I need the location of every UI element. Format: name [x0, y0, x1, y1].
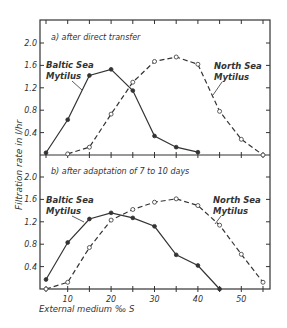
y-tick-label: 0.4 — [24, 263, 37, 272]
y-tick-label: 1.2 — [24, 218, 37, 227]
y-axis-label: Filtration rate in l/hr — [14, 119, 24, 210]
data-point — [239, 137, 243, 141]
baltic-sea-line — [46, 69, 198, 152]
data-point — [44, 151, 48, 155]
panel-b-baltic-label-2: Mytilus — [46, 206, 81, 216]
data-point — [153, 224, 157, 228]
data-point — [109, 211, 113, 215]
data-point — [174, 253, 178, 257]
data-point — [174, 55, 178, 59]
x-tick-label: 40 — [193, 295, 203, 304]
data-point — [196, 264, 200, 268]
data-point — [196, 62, 200, 66]
data-point — [66, 241, 70, 245]
data-point — [174, 197, 178, 201]
x-tick-label: 10 — [63, 295, 73, 304]
data-point — [153, 134, 157, 138]
baltic-leader-line — [72, 216, 84, 222]
data-point — [131, 216, 135, 220]
data-point — [109, 218, 113, 222]
panel-b-north-label-1: North Sea — [213, 195, 261, 205]
data-point — [88, 74, 92, 78]
x-tick-label: 50 — [236, 295, 246, 304]
y-tick-label: 1.6 — [24, 195, 37, 204]
baltic-leader-line — [72, 81, 82, 90]
data-point — [44, 287, 48, 291]
data-point — [131, 89, 135, 93]
north-leader-line — [213, 82, 222, 95]
data-point — [87, 145, 91, 149]
baltic-sea-line — [46, 213, 220, 289]
x-tick-label: 20 — [106, 295, 116, 304]
data-point — [66, 280, 70, 284]
data-point — [174, 145, 178, 149]
panel-a-baltic-label-1: Baltic Sea — [46, 60, 94, 70]
filtration-rate-chart: 0.40.81.21.62.0 0.40.81.21.62.0102030405… — [0, 0, 287, 328]
data-point — [109, 112, 113, 116]
panel-b-title: b) after adaptation of 7 to 10 days — [51, 167, 189, 176]
y-tick-label: 2.0 — [24, 173, 37, 182]
data-point — [261, 280, 265, 284]
panel-b-north-label-2: Mytilus — [213, 206, 248, 216]
data-point — [239, 252, 243, 256]
data-point — [131, 207, 135, 211]
north-leader-line — [215, 216, 221, 224]
panel-b-after-adaptation: 0.40.81.21.62.01020304050 — [24, 173, 270, 304]
data-point — [87, 246, 91, 250]
data-point — [196, 204, 200, 208]
data-point — [196, 150, 200, 154]
x-tick-label: 30 — [149, 295, 159, 304]
y-tick-label: 1.6 — [24, 61, 37, 70]
panel-a-north-label-2: Mytilus — [214, 72, 249, 82]
y-tick-label: 2.0 — [24, 39, 37, 48]
data-point — [66, 152, 70, 156]
data-point — [88, 217, 92, 221]
data-point — [261, 153, 265, 157]
data-point — [218, 287, 222, 291]
data-point — [218, 109, 222, 113]
data-point — [131, 80, 135, 84]
data-point — [153, 59, 157, 63]
y-tick-label: 1.2 — [24, 84, 37, 93]
panel-b-baltic-label-1: Baltic Sea — [46, 195, 94, 205]
data-point — [153, 200, 157, 204]
y-tick-label: 0.8 — [24, 240, 37, 249]
panel-a-north-label-1: North Sea — [214, 61, 262, 71]
data-point — [66, 118, 70, 122]
data-point — [44, 278, 48, 282]
y-tick-label: 0.8 — [24, 106, 37, 115]
panel-a-baltic-label-2: Mytilus — [46, 71, 81, 81]
data-point — [109, 67, 113, 71]
y-tick-label: 0.4 — [24, 129, 37, 138]
panel-a-title: a) after direct transfer — [51, 33, 141, 42]
data-point — [218, 223, 222, 227]
x-axis-label: External medium ‰ S — [39, 304, 135, 314]
